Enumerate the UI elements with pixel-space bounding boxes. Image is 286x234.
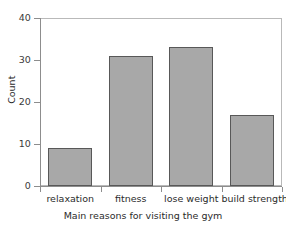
x-tick-mark bbox=[161, 187, 162, 192]
x-category-label: relaxation bbox=[40, 194, 101, 204]
y-tick-label: 0 bbox=[0, 181, 31, 191]
x-tick-mark bbox=[101, 187, 102, 192]
x-tick-mark bbox=[222, 187, 223, 192]
x-category-label: build strength bbox=[222, 194, 283, 204]
y-tick-mark bbox=[34, 144, 40, 145]
bar-chart-figure: 010203040 relaxationfitnesslose weightbu… bbox=[0, 0, 286, 234]
x-tick-mark bbox=[282, 187, 283, 192]
x-category-label: lose weight bbox=[161, 194, 222, 204]
y-tick-label: 40 bbox=[0, 13, 31, 23]
bar bbox=[230, 115, 274, 186]
bar bbox=[109, 56, 153, 186]
x-category-label: fitness bbox=[101, 194, 162, 204]
bar bbox=[169, 47, 213, 186]
y-axis-title: Count bbox=[7, 60, 17, 120]
bar bbox=[48, 148, 92, 186]
y-tick-mark bbox=[34, 18, 40, 19]
y-tick-mark bbox=[34, 102, 40, 103]
x-tick-mark bbox=[40, 187, 41, 192]
y-tick-mark bbox=[34, 60, 40, 61]
y-axis-line bbox=[40, 18, 41, 187]
x-axis-title: Main reasons for visiting the gym bbox=[0, 211, 286, 221]
y-tick-label: 10 bbox=[0, 139, 31, 149]
